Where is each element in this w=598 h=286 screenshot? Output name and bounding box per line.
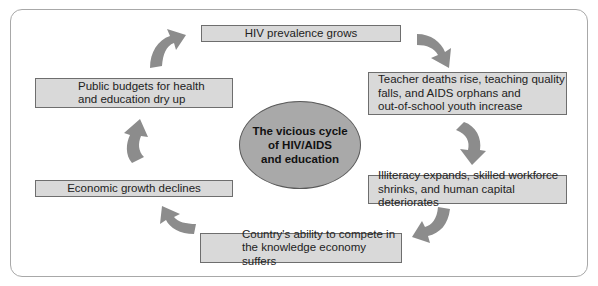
diagram-title: The vicious cycle of HIV/AIDS and educat… <box>252 124 347 166</box>
node-teacher-deaths-rise: Teacher deaths rise, teaching quality fa… <box>368 72 567 115</box>
node-label: Illiteracy expands, skilled workforce sh… <box>378 169 566 210</box>
curved-arrow-icon <box>415 28 457 70</box>
node-label: Economic growth declines <box>67 182 201 196</box>
node-public-budgets-dry-up: Public budgets for health and education … <box>35 78 233 108</box>
node-economic-growth-declines: Economic growth declines <box>35 180 233 197</box>
curved-arrow-icon <box>146 26 188 70</box>
node-label: HIV prevalence grows <box>245 27 358 41</box>
center-title-ellipse: The vicious cycle of HIV/AIDS and educat… <box>239 101 361 189</box>
figure-caption-cutoff <box>10 281 410 286</box>
node-hiv-prevalence-grows: HIV prevalence grows <box>201 25 401 42</box>
node-label: Country's ability to compete in the know… <box>242 228 401 269</box>
node-label: Public budgets for health and education … <box>78 80 205 107</box>
node-illiteracy-expands: Illiteracy expands, skilled workforce sh… <box>368 175 567 204</box>
curved-arrow-icon <box>452 120 486 166</box>
node-label: Teacher deaths rise, teaching quality fa… <box>378 73 565 114</box>
curved-arrow-icon <box>156 204 198 246</box>
curved-arrow-icon <box>410 205 452 247</box>
node-country-ability-suffers: Country's ability to compete in the know… <box>200 233 402 263</box>
curved-arrow-icon <box>122 117 152 165</box>
